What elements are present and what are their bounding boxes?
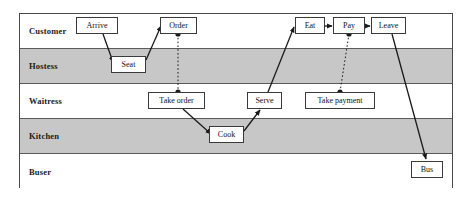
task-box-cook[interactable]: Cook xyxy=(209,126,244,143)
task-box-serve[interactable]: Serve xyxy=(247,92,282,109)
swimlane-label-kitchen: Kitchen xyxy=(29,131,59,141)
swimlane-waitress: Waitress xyxy=(20,84,452,119)
swimlane-label-waitress: Waitress xyxy=(29,96,62,106)
swimlane-diagram: Customer Hostess Waitress Kitchen Buser … xyxy=(0,0,472,200)
task-box-arrive[interactable]: Arrive xyxy=(76,17,118,34)
task-box-order[interactable]: Order xyxy=(160,17,197,34)
task-box-seat[interactable]: Seat xyxy=(111,56,146,73)
swimlane-label-customer: Customer xyxy=(29,26,66,36)
swimlane-hostess: Hostess xyxy=(20,49,452,84)
diagram-frame: Customer Hostess Waitress Kitchen Buser xyxy=(19,13,453,188)
task-box-leave[interactable]: Leave xyxy=(371,17,406,34)
swimlane-buser: Buser xyxy=(20,154,452,189)
task-box-eat[interactable]: Eat xyxy=(295,17,325,34)
task-box-take-order[interactable]: Take order xyxy=(148,92,205,109)
task-box-bus[interactable]: Bus xyxy=(411,161,443,178)
swimlane-label-hostess: Hostess xyxy=(29,61,58,71)
task-box-pay[interactable]: Pay xyxy=(333,17,365,34)
task-box-take-payment[interactable]: Take payment xyxy=(305,92,375,109)
swimlane-label-buser: Buser xyxy=(29,167,51,177)
